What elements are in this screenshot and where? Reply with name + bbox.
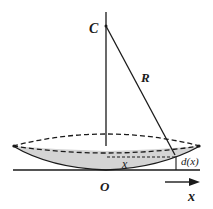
label-distance: x bbox=[121, 157, 128, 171]
lens-left-tip bbox=[12, 144, 15, 147]
label-radius: R bbox=[140, 70, 150, 85]
lens-right-tip bbox=[197, 144, 200, 147]
label-thickness: d(x) bbox=[181, 155, 199, 168]
lens-diagram: C R O x d(x) x bbox=[0, 0, 213, 209]
label-center: C bbox=[89, 21, 99, 36]
label-origin: O bbox=[100, 179, 110, 194]
x-axis-arrow-head bbox=[189, 178, 200, 186]
label-axis: x bbox=[187, 189, 195, 204]
